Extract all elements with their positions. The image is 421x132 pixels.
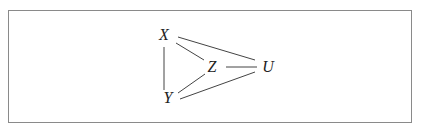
edge-y-u — [180, 72, 255, 99]
edge-x-z — [176, 43, 204, 60]
node-z-label: Z — [208, 58, 218, 75]
graph-canvas: X Y Z U — [0, 0, 421, 132]
node-u-label: U — [262, 58, 275, 75]
edge-x-u — [178, 37, 255, 60]
node-x-label: X — [158, 26, 170, 43]
node-y-label: Y — [164, 89, 175, 106]
labels-group: X Y Z U — [158, 26, 275, 106]
edge-z-y — [178, 74, 205, 93]
